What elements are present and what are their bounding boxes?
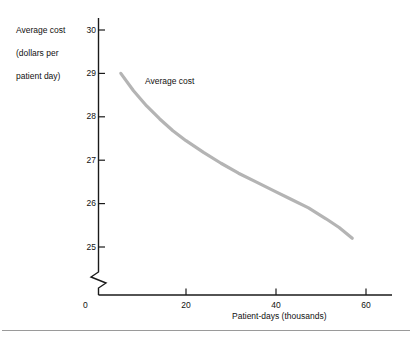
bottom-divider bbox=[2, 330, 410, 331]
average-cost-curve bbox=[121, 73, 352, 238]
y-axis-break-symbol bbox=[91, 262, 106, 295]
chart-figure: Average cost (dollars per patient day) 3… bbox=[0, 0, 412, 343]
chart-plot-area bbox=[0, 0, 412, 343]
